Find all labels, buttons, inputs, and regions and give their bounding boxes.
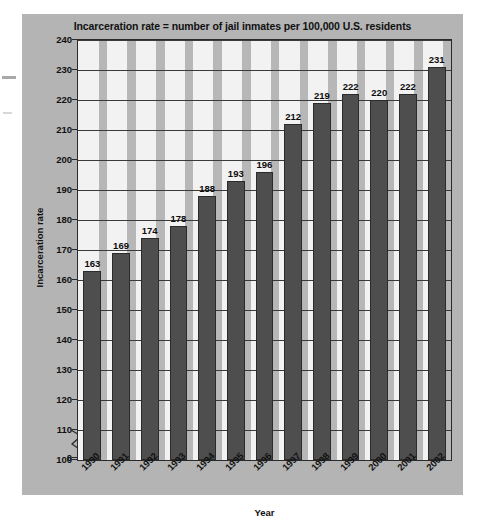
page-scan-artifacts [0, 0, 22, 528]
y-tick-label: 230 [42, 64, 72, 75]
y-tick-mark [72, 399, 77, 400]
bar [112, 253, 130, 460]
bar [399, 94, 417, 460]
y-tick-mark [72, 429, 77, 430]
y-tick-label: 220 [42, 94, 72, 105]
y-tick-label: 190 [42, 184, 72, 195]
y-tick-mark [72, 189, 77, 190]
y-tick-label: 210 [42, 124, 72, 135]
y-tick-mark-zero [72, 457, 77, 458]
bar [198, 196, 216, 460]
bar-value-label: 220 [365, 87, 394, 98]
y-tick-label: 240 [42, 34, 72, 45]
bar-value-label: 222 [394, 81, 423, 92]
bar-value-label: 174 [135, 225, 164, 236]
gridline [78, 40, 451, 41]
bar-value-label: 219 [308, 90, 337, 101]
bar-value-label: 196 [250, 159, 279, 170]
gridline [78, 130, 451, 131]
y-tick-label: 180 [42, 214, 72, 225]
y-tick-mark [72, 219, 77, 220]
bar-value-label: 169 [107, 240, 136, 251]
chart-title: Incarceration rate = number of jail inma… [22, 20, 463, 32]
y-tick-mark [72, 339, 77, 340]
bar [284, 124, 302, 460]
y-tick-mark [72, 309, 77, 310]
y-tick-label: 150 [42, 304, 72, 315]
y-tick-mark [72, 369, 77, 370]
bar [83, 271, 101, 460]
y-tick-label: 110 [42, 424, 72, 435]
y-tick-label: 140 [42, 334, 72, 345]
y-tick-label: 120 [42, 394, 72, 405]
x-axis-tick-labels: 1990199119921993199419951996199719981999… [77, 463, 452, 505]
bar [227, 181, 245, 460]
plot-area: 163169174178188193196212219222220222231 [77, 39, 452, 461]
y-tick-mark [72, 69, 77, 70]
bar [141, 238, 159, 460]
y-tick-label-zero: 0 [42, 452, 72, 463]
bar-value-label: 222 [336, 81, 365, 92]
y-tick-mark [72, 249, 77, 250]
margin-mark-upper [2, 76, 16, 79]
y-tick-mark [72, 279, 77, 280]
margin-mark-lower [3, 112, 12, 114]
y-tick-mark [72, 459, 77, 460]
y-tick-label: 200 [42, 154, 72, 165]
bar [313, 103, 331, 460]
y-tick-mark [72, 129, 77, 130]
gridline [78, 70, 451, 71]
bar-value-label: 188 [193, 183, 222, 194]
bar [428, 67, 446, 460]
y-axis-tick-labels: 1001101201301401501601701801902002102202… [38, 39, 72, 461]
gridline [78, 100, 451, 101]
y-tick-mark [72, 99, 77, 100]
y-tick-label: 170 [42, 244, 72, 255]
bar [342, 94, 360, 460]
bar-value-label: 231 [422, 54, 451, 65]
bar-value-label: 178 [164, 213, 193, 224]
y-tick-mark [72, 159, 77, 160]
bar [170, 226, 188, 460]
y-tick-label: 130 [42, 364, 72, 375]
bar [256, 172, 274, 460]
y-tick-label: 160 [42, 274, 72, 285]
bar-value-label: 212 [279, 111, 308, 122]
x-axis-title: Year [77, 507, 452, 518]
bar-value-label: 163 [78, 258, 107, 269]
bar [370, 100, 388, 460]
bar-chart-figure: Incarceration rate = number of jail inma… [22, 14, 463, 495]
y-tick-mark [72, 39, 77, 40]
bar-value-label: 193 [221, 168, 250, 179]
